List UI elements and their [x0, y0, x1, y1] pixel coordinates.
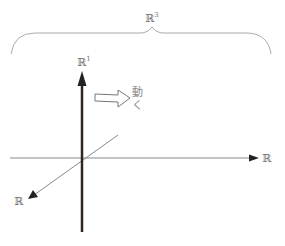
- vertical-axis-arrowhead: [78, 71, 87, 86]
- vertical-axis-label-exponent: 1: [86, 55, 90, 63]
- brace-label-base: ℝ: [145, 12, 154, 25]
- diagonal-axis-label: ℝ: [14, 196, 23, 207]
- diagonal-axis: [34, 135, 118, 195]
- motion-text-line2: く: [131, 100, 143, 112]
- brace-label-exponent: 3: [154, 11, 158, 19]
- vertical-axis-label: ℝ1: [77, 57, 91, 68]
- motion-text-line1: 動: [131, 87, 143, 99]
- curly-brace: [11, 27, 271, 54]
- diagram-canvas: [0, 0, 285, 246]
- horizontal-axis-arrowhead: [249, 155, 259, 162]
- horizontal-axis-label: ℝ: [262, 153, 271, 164]
- hollow-motion-arrow: [95, 90, 130, 107]
- diagonal-axis-arrowhead: [28, 190, 38, 199]
- vertical-axis-label-base: ℝ: [77, 56, 86, 69]
- brace-label: ℝ3: [145, 13, 159, 24]
